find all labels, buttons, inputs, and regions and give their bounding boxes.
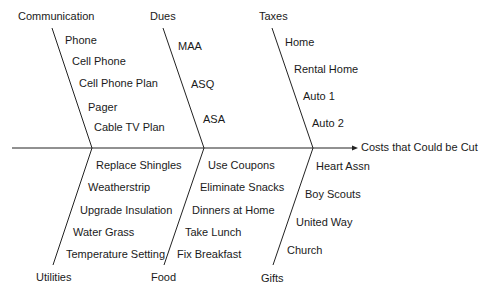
cause-item: Take Lunch	[185, 226, 241, 239]
cause-item: ASQ	[191, 78, 214, 91]
category-gifts: Gifts	[261, 272, 284, 285]
category-food: Food	[151, 271, 176, 284]
cause-item: Upgrade Insulation	[80, 204, 172, 217]
category-dues: Dues	[150, 10, 176, 23]
cause-item: ASA	[203, 113, 225, 126]
cause-item: Cell Phone	[72, 55, 126, 68]
cause-item: Phone	[65, 34, 97, 47]
category-taxes: Taxes	[259, 10, 288, 23]
cause-item: Use Coupons	[208, 159, 275, 172]
cause-item: Church	[287, 244, 322, 257]
cause-item: Cable TV Plan	[94, 121, 165, 134]
category-communication: Communication	[18, 10, 94, 23]
cause-item: Boy Scouts	[305, 188, 361, 201]
cause-item: Home	[285, 36, 314, 49]
category-utilities: Utilities	[36, 271, 71, 284]
cause-item: Auto 1	[303, 90, 335, 103]
cause-item: Weatherstrip	[88, 181, 150, 194]
cause-item: Pager	[88, 101, 117, 114]
cause-item: Temperature Setting	[66, 248, 165, 261]
cause-item: Replace Shingles	[96, 159, 182, 172]
cause-item: Water Grass	[73, 226, 134, 239]
cause-item: Heart Assn	[316, 160, 370, 173]
effect-label: Costs that Could be Cut	[361, 141, 478, 154]
cause-item: Rental Home	[294, 63, 358, 76]
cause-item: MAA	[178, 40, 202, 53]
cause-item: Fix Breakfast	[177, 248, 241, 261]
cause-item: Eliminate Snacks	[200, 181, 284, 194]
cause-item: United Way	[296, 216, 352, 229]
arrowhead-icon	[352, 146, 358, 151]
cause-item: Auto 2	[312, 117, 344, 130]
cause-item: Dinners at Home	[192, 204, 275, 217]
cause-item: Cell Phone Plan	[79, 77, 158, 90]
